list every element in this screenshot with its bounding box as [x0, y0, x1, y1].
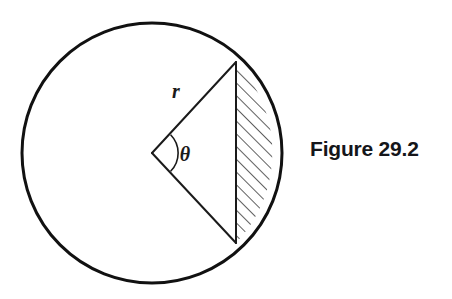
figure-page: r θ Figure 29.2 [0, 0, 452, 299]
angle-label: θ [180, 143, 191, 165]
lower-radius-line-icon [152, 153, 236, 243]
radius-label: r [172, 80, 180, 102]
figure-caption: Figure 29.2 [310, 137, 419, 161]
radius-line-icon [152, 62, 236, 153]
angle-arc-icon [171, 135, 179, 172]
